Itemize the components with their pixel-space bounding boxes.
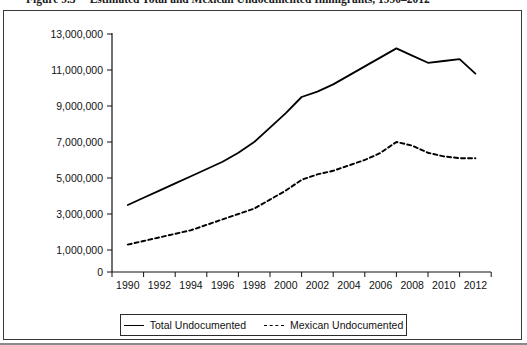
x-tick-label: 2006 bbox=[369, 279, 393, 291]
legend-label-total: Total Undocumented bbox=[150, 319, 246, 331]
x-tick-marks bbox=[112, 272, 491, 277]
y-tick-marks bbox=[107, 34, 112, 272]
figure-title: Estimated Total and Mexican Undocumented… bbox=[90, 0, 430, 5]
y-tick-label: 9,000,000 bbox=[56, 100, 103, 112]
legend-item-total: Total Undocumented bbox=[124, 319, 246, 331]
series-mexican-undocumented bbox=[128, 142, 476, 245]
x-tick-label: 2010 bbox=[432, 279, 456, 291]
legend-item-mexican: Mexican Undocumented bbox=[264, 319, 403, 331]
figure-box: 0 1,000,000 3,000,000 5,000,000 7,000,00… bbox=[3, 10, 522, 340]
x-tick-label: 2012 bbox=[464, 279, 488, 291]
figure-caption-clip: Figure 9.3Estimated Total and Mexican Un… bbox=[0, 0, 527, 8]
y-tick-label: 0 bbox=[97, 266, 103, 278]
y-tick-label: 11,000,000 bbox=[51, 64, 103, 76]
series-total-undocumented bbox=[128, 48, 476, 205]
y-tick-label: 1,000,000 bbox=[56, 244, 103, 256]
legend-line-dashed-icon bbox=[264, 325, 284, 326]
figure-number: Figure 9.3 bbox=[26, 0, 76, 5]
x-tick-label: 2002 bbox=[306, 279, 330, 291]
y-tick-label: 13,000,000 bbox=[50, 28, 103, 40]
x-tick-label: 2000 bbox=[274, 279, 298, 291]
x-tick-label: 1998 bbox=[243, 279, 267, 291]
x-tick-label: 2008 bbox=[401, 279, 425, 291]
x-tick-label: 1994 bbox=[179, 279, 203, 291]
x-tick-label: 1996 bbox=[211, 279, 235, 291]
x-tick-label: 2004 bbox=[337, 279, 361, 291]
chart-legend: Total Undocumented Mexican Undocumented bbox=[120, 314, 407, 336]
legend-label-mexican: Mexican Undocumented bbox=[290, 319, 403, 331]
figure-caption: Figure 9.3Estimated Total and Mexican Un… bbox=[0, 0, 527, 6]
x-tick-label: 1990 bbox=[116, 279, 140, 291]
y-tick-label: 5,000,000 bbox=[56, 172, 103, 184]
legend-line-solid-icon bbox=[124, 325, 144, 326]
plot-area: 0 1,000,000 3,000,000 5,000,000 7,000,00… bbox=[4, 11, 523, 341]
figure-page: Figure 9.3Estimated Total and Mexican Un… bbox=[0, 0, 527, 345]
y-tick-label: 3,000,000 bbox=[56, 208, 103, 220]
y-tick-label: 7,000,000 bbox=[56, 136, 103, 148]
line-chart: 0 1,000,000 3,000,000 5,000,000 7,000,00… bbox=[4, 11, 523, 341]
x-tick-label: 1992 bbox=[148, 279, 172, 291]
